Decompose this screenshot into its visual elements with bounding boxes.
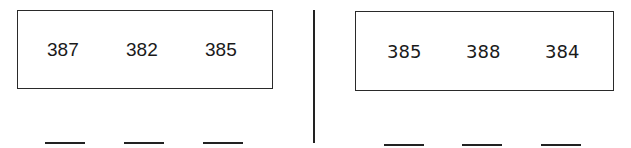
answer-blank[interactable] — [384, 144, 424, 146]
answer-blank[interactable] — [541, 144, 581, 146]
number: 387 — [47, 40, 79, 59]
divider — [313, 10, 315, 143]
answer-blank[interactable] — [462, 144, 502, 146]
number: 385 — [387, 43, 421, 61]
number: 385 — [205, 40, 237, 59]
number: 384 — [545, 43, 579, 61]
answer-blank[interactable] — [203, 142, 243, 144]
number: 382 — [126, 40, 158, 59]
number: 388 — [466, 43, 500, 61]
answer-blank[interactable] — [124, 142, 164, 144]
answer-blank[interactable] — [45, 142, 85, 144]
